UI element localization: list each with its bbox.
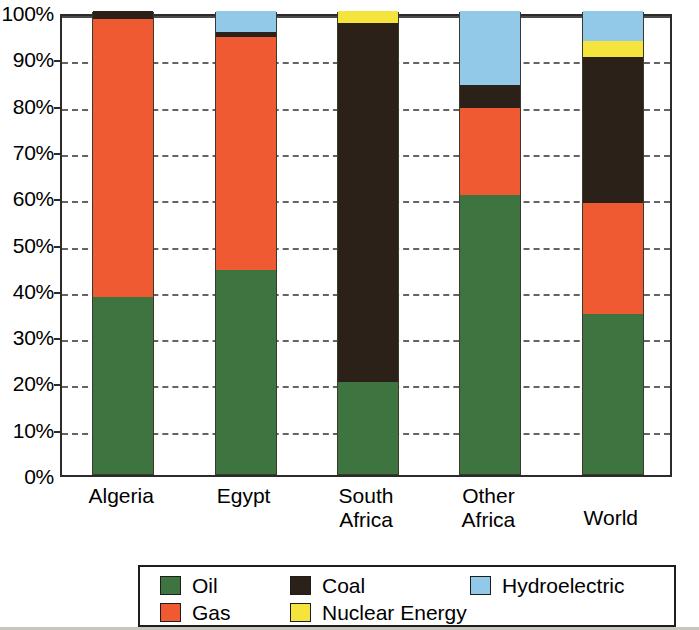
bar-algeria — [92, 12, 154, 475]
y-axis-tick-label: 30% — [0, 327, 54, 348]
legend-swatch-icon — [290, 603, 311, 622]
bar-south-africa — [337, 12, 399, 475]
legend-item-nuclear-energy: Nuclear Energy — [290, 602, 467, 623]
bar-segment-hydroelectric — [460, 11, 520, 85]
bar-egypt — [215, 12, 277, 475]
bar-other-africa — [459, 12, 521, 475]
legend: OilCoalHydroelectricGasNuclear Energy — [138, 565, 676, 627]
y-axis-tick-label: 40% — [0, 281, 54, 302]
legend-item-coal: Coal — [290, 575, 365, 596]
y-axis-tick-label: 70% — [0, 142, 54, 163]
legend-swatch-icon — [470, 576, 491, 595]
legend-item-hydroelectric: Hydroelectric — [470, 575, 625, 596]
legend-item-oil: Oil — [160, 575, 218, 596]
legend-swatch-icon — [160, 603, 181, 622]
bar-segment-oil — [93, 297, 153, 474]
x-axis-category-label: World — [536, 506, 686, 530]
y-axis-tick-label: 80% — [0, 96, 54, 117]
y-axis-tick-label: 20% — [0, 373, 54, 394]
bar-segment-gas — [93, 19, 153, 297]
bar-segment-coal — [460, 85, 520, 108]
bar-segment-coal — [93, 11, 153, 19]
bar-segment-coal — [216, 32, 276, 38]
bar-world — [582, 12, 644, 475]
plot-area — [60, 14, 672, 477]
y-axis-tick-label: 50% — [0, 235, 54, 256]
legend-item-gas: Gas — [160, 602, 231, 623]
legend-label: Gas — [192, 602, 231, 623]
bar-segment-oil — [216, 270, 276, 474]
bar-segment-gas — [583, 203, 643, 314]
y-axis-tick-label: 60% — [0, 188, 54, 209]
bar-segment-hydroelectric — [216, 11, 276, 32]
y-axis-tick-label: 100% — [0, 3, 54, 24]
bar-segment-coal — [583, 57, 643, 203]
y-axis-tick-label: 90% — [0, 49, 54, 70]
legend-label: Oil — [192, 575, 218, 596]
legend-label: Coal — [322, 575, 365, 596]
bar-segment-gas — [460, 108, 520, 195]
legend-label: Nuclear Energy — [322, 602, 467, 623]
legend-swatch-icon — [160, 576, 181, 595]
stacked-bar-chart: 100%90%80%70%60%50%40%30%20%10%0% Algeri… — [0, 0, 699, 630]
bar-segment-oil — [583, 314, 643, 474]
legend-swatch-icon — [290, 576, 311, 595]
y-axis-tick-label: 10% — [0, 420, 54, 441]
legend-label: Hydroelectric — [502, 575, 625, 596]
bar-segment-nuclear-energy — [338, 11, 398, 23]
bar-segment-oil — [338, 382, 398, 474]
bar-segment-nuclear-energy — [583, 41, 643, 57]
bar-segment-oil — [460, 195, 520, 474]
bar-segment-hydroelectric — [583, 11, 643, 41]
bar-segment-coal — [338, 23, 398, 383]
bar-segment-gas — [216, 37, 276, 270]
